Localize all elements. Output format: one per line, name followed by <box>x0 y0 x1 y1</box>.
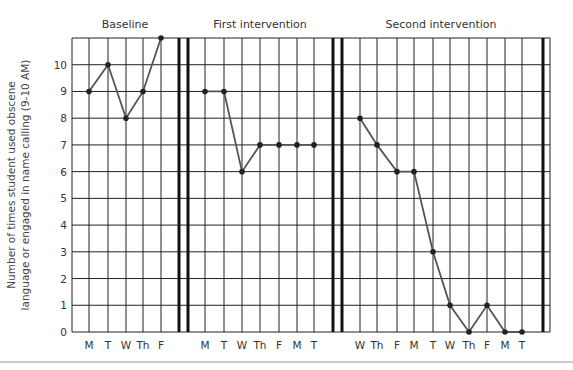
x-tick-label: M <box>200 339 209 351</box>
data-point <box>123 115 129 121</box>
behavior-chart: BaselineFirst interventionSecond interve… <box>0 0 573 370</box>
y-tick-label: 10 <box>54 59 67 71</box>
x-tick-label: Th <box>369 339 383 351</box>
y-tick-label: 8 <box>60 112 67 124</box>
phase-line <box>89 38 161 118</box>
x-tick-label: T <box>310 339 318 351</box>
data-point <box>502 329 508 335</box>
y-tick-labels: 012345678910 <box>54 59 68 338</box>
x-tick-label: T <box>104 339 112 351</box>
x-tick-label: F <box>394 339 400 351</box>
x-tick-label: T <box>429 339 437 351</box>
y-tick-label: 6 <box>60 166 67 178</box>
x-tick-label: T <box>518 339 526 351</box>
data-point <box>411 169 417 175</box>
x-tick-labels: MTWThFMTWThFMTWThFMTWThFMT <box>84 339 525 351</box>
x-tick-label: W <box>121 339 132 351</box>
x-tick-label: F <box>484 339 490 351</box>
data-point <box>519 329 525 335</box>
x-tick-label: F <box>276 339 282 351</box>
data-point <box>484 302 490 308</box>
x-tick-label: M <box>292 339 301 351</box>
data-point <box>447 302 453 308</box>
phase-title: Second intervention <box>386 18 497 31</box>
data-point <box>374 142 380 148</box>
phase-titles: BaselineFirst interventionSecond interve… <box>102 18 497 31</box>
x-tick-label: T <box>220 339 228 351</box>
data-point <box>294 142 300 148</box>
data-point <box>86 89 92 95</box>
x-tick-label: W <box>445 339 456 351</box>
data-point <box>466 329 472 335</box>
y-tick-label: 2 <box>60 273 67 285</box>
x-tick-label: W <box>355 339 366 351</box>
data-point <box>276 142 282 148</box>
data-point <box>311 142 317 148</box>
data-series <box>86 35 525 335</box>
x-tick-label: M <box>409 339 418 351</box>
y-tick-label: 0 <box>60 326 67 338</box>
x-tick-label: F <box>158 339 164 351</box>
y-tick-label: 3 <box>60 246 67 258</box>
data-point <box>158 35 164 41</box>
grid <box>72 38 550 332</box>
x-tick-label: Th <box>252 339 266 351</box>
y-tick-label: 4 <box>60 219 67 231</box>
phase-title: Baseline <box>102 18 149 31</box>
data-point <box>221 89 227 95</box>
x-tick-label: Th <box>135 339 149 351</box>
x-tick-label: M <box>84 339 93 351</box>
y-tick-label: 9 <box>60 85 67 97</box>
y-axis-label: Number of times student used obscenelang… <box>5 60 31 311</box>
data-point <box>105 62 111 68</box>
data-point <box>202 89 208 95</box>
data-point <box>394 169 400 175</box>
y-tick-label: 1 <box>60 299 67 311</box>
phase-title: First intervention <box>213 18 307 31</box>
phase-dividers <box>179 38 543 332</box>
x-tick-label: Th <box>461 339 475 351</box>
y-axis-label-line: Number of times student used obscene <box>5 81 17 288</box>
y-tick-label: 5 <box>60 192 67 204</box>
data-point <box>357 115 363 121</box>
data-point <box>239 169 245 175</box>
x-tick-label: M <box>500 339 509 351</box>
data-point <box>257 142 263 148</box>
x-tick-label: W <box>237 339 248 351</box>
data-point <box>430 249 436 255</box>
y-axis-label-line: language or engaged in name calling (9-1… <box>19 60 31 311</box>
data-point <box>140 89 146 95</box>
y-tick-label: 7 <box>60 139 67 151</box>
